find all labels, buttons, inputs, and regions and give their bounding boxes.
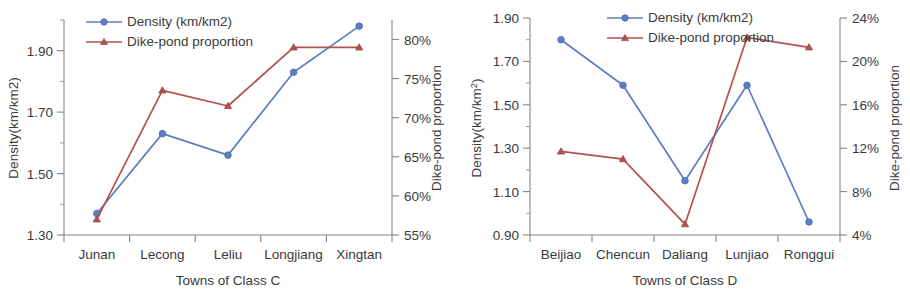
ytick-label: 1.70 bbox=[27, 105, 53, 120]
y2tick-label: 75% bbox=[404, 72, 431, 87]
left-axis-tick-labels-c: 1.30 1.50 1.70 1.90 bbox=[27, 44, 53, 243]
data-point-marker bbox=[620, 82, 627, 89]
ytick-label: 1.90 bbox=[493, 11, 519, 26]
series-line-dikepond bbox=[561, 38, 809, 225]
data-point-marker bbox=[159, 130, 166, 137]
y2tick-label: 60% bbox=[404, 189, 431, 204]
category-label: Longjiang bbox=[264, 247, 323, 262]
series-line-density bbox=[561, 40, 809, 222]
legend-marker-density-circle-icon-d bbox=[622, 15, 628, 21]
y-axis-title-d-tail: ) bbox=[469, 78, 484, 83]
x-axis-ticks-c bbox=[64, 235, 392, 242]
legend-label-dikepond-c: Dike-pond proportion bbox=[127, 34, 253, 49]
data-point-marker bbox=[356, 23, 363, 30]
y2tick-label: 24% bbox=[852, 11, 879, 26]
x-axis-category-labels-d: Beijiao Chencun Daliang Lunjiao Ronggui bbox=[541, 247, 834, 262]
category-label: Lecong bbox=[140, 247, 184, 262]
data-point-marker bbox=[93, 216, 100, 222]
x-axis-ticks-d bbox=[530, 235, 840, 242]
legend-label-density-d: Density (km/km2) bbox=[648, 10, 753, 25]
y-axis-title-c: Density(km/km2) bbox=[6, 77, 21, 178]
data-point-marker bbox=[159, 87, 166, 93]
data-point-marker bbox=[225, 152, 232, 159]
axes-class-c bbox=[64, 20, 392, 235]
category-label: Leliu bbox=[214, 247, 243, 262]
y2tick-label: 12% bbox=[852, 141, 879, 156]
category-label: Ronggui bbox=[784, 247, 834, 262]
series-line-density bbox=[97, 26, 359, 213]
right-axis-ticks-c bbox=[392, 40, 399, 236]
y-axis-title-d-base: Density(km/km bbox=[469, 88, 484, 177]
x-axis-title-c: Towns of Class C bbox=[176, 273, 281, 288]
right-axis-tick-labels-d: 4% 8% 12% 16% 20% 24% bbox=[852, 11, 879, 243]
ytick-label: 1.50 bbox=[27, 167, 53, 182]
y2-axis-title-c: Dike-pond proportion bbox=[429, 65, 444, 191]
legend-label-density-c: Density (km/km2) bbox=[127, 14, 232, 29]
y2tick-label: 55% bbox=[404, 228, 431, 243]
figure-container: 1.30 1.50 1.70 1.90 55% 60% 65% 70% 75% bbox=[0, 0, 910, 292]
chart-svg-class-c: 1.30 1.50 1.70 1.90 55% 60% 65% 70% 75% bbox=[0, 0, 455, 292]
data-point-marker bbox=[682, 177, 689, 184]
data-point-marker bbox=[558, 36, 565, 43]
chart-panel-class-d: 0.90 1.10 1.30 1.50 1.70 1.90 4% 8% 12% bbox=[455, 0, 910, 292]
right-axis-ticks-d bbox=[840, 18, 847, 235]
data-point-marker bbox=[290, 69, 297, 76]
ytick-label: 1.70 bbox=[493, 54, 519, 69]
chart-svg-class-d: 0.90 1.10 1.30 1.50 1.70 1.90 4% 8% 12% bbox=[455, 0, 910, 292]
y-axis-title-d: Density(km/km2) bbox=[468, 78, 484, 177]
right-axis-tick-labels-c: 55% 60% 65% 70% 75% 80% bbox=[404, 33, 431, 244]
data-point-marker bbox=[744, 82, 751, 89]
series-line-dikepond bbox=[97, 47, 359, 219]
legend-label-dikepond-d: Dike-pond proportion bbox=[648, 30, 774, 45]
y2tick-label: 80% bbox=[404, 33, 431, 48]
ytick-label: 1.50 bbox=[493, 98, 519, 113]
y2tick-label: 4% bbox=[852, 228, 872, 243]
category-label: Junan bbox=[78, 247, 115, 262]
category-label: Xingtan bbox=[336, 247, 382, 262]
y2-axis-title-d: Dike-pond proportion bbox=[887, 65, 902, 191]
x-axis-category-labels-c: Junan Lecong Leliu Longjiang Xingtan bbox=[78, 247, 382, 262]
legend-class-d: Density (km/km2) Dike-pond proportion bbox=[607, 10, 774, 45]
legend-class-c: Density (km/km2) Dike-pond proportion bbox=[86, 14, 253, 49]
chart-panel-class-c: 1.30 1.50 1.70 1.90 55% 60% 65% 70% 75% bbox=[0, 0, 455, 292]
ytick-label: 1.10 bbox=[493, 185, 519, 200]
category-label: Daliang bbox=[662, 247, 708, 262]
series-group-d bbox=[557, 34, 812, 227]
left-axis-ticks-d bbox=[523, 18, 530, 235]
left-axis-tick-labels-d: 0.90 1.10 1.30 1.50 1.70 1.90 bbox=[493, 11, 519, 243]
ytick-label: 1.30 bbox=[493, 141, 519, 156]
ytick-label: 0.90 bbox=[493, 228, 519, 243]
category-label: Lunjiao bbox=[725, 247, 769, 262]
category-label: Chencun bbox=[596, 247, 650, 262]
ytick-label: 1.30 bbox=[27, 228, 53, 243]
y2tick-label: 70% bbox=[404, 111, 431, 126]
y2tick-label: 20% bbox=[852, 54, 879, 69]
y2tick-label: 65% bbox=[404, 150, 431, 165]
y2tick-label: 16% bbox=[852, 98, 879, 113]
series-group-c bbox=[93, 23, 363, 222]
data-point-marker bbox=[806, 219, 813, 226]
ytick-label: 1.90 bbox=[27, 44, 53, 59]
x-axis-title-d: Towns of Class D bbox=[633, 273, 738, 288]
left-axis-ticks-c bbox=[57, 20, 64, 235]
y2tick-label: 8% bbox=[852, 185, 872, 200]
category-label: Beijiao bbox=[541, 247, 582, 262]
legend-marker-density-circle-icon-c bbox=[101, 19, 107, 25]
